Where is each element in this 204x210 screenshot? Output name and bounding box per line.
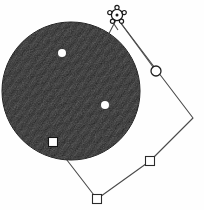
handle-edge-circle[interactable] xyxy=(151,66,161,76)
control-point-1[interactable] xyxy=(58,49,66,57)
handle-bottom-right[interactable] xyxy=(146,157,155,166)
drawing-canvas[interactable]: Drawing canvas Ellipse Rotate xyxy=(0,0,204,210)
handle-top-left[interactable] xyxy=(49,138,58,147)
canvas-surface[interactable] xyxy=(0,0,204,210)
control-point-2[interactable] xyxy=(101,101,109,109)
handle-bottom[interactable] xyxy=(93,195,102,204)
